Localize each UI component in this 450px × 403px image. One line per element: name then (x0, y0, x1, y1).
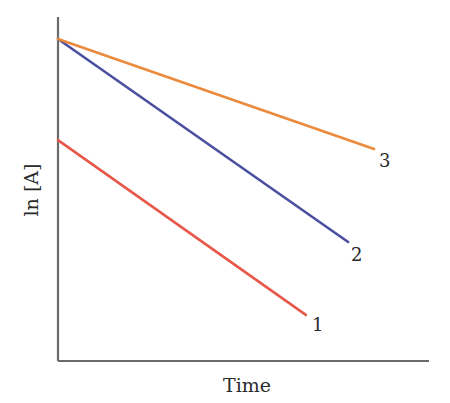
y-axis-label: ln [A] (20, 164, 42, 217)
line-chart: Time ln [A] 1 2 3 (0, 0, 450, 403)
series-layer (58, 39, 374, 315)
series-label-2: 2 (351, 244, 362, 265)
series-label-1: 1 (312, 314, 323, 335)
x-axis-label: Time (223, 374, 271, 396)
series-label-3: 3 (379, 150, 390, 171)
series-line-3 (58, 39, 374, 149)
plot-area (58, 17, 429, 361)
series-line-2 (58, 39, 348, 242)
series-line-1 (58, 140, 306, 315)
